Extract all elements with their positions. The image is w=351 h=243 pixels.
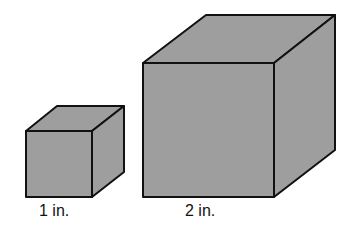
small-cube-front-face	[26, 131, 92, 197]
large-cube-label: 2 in.	[185, 203, 215, 219]
large-cube-front-face	[143, 63, 274, 197]
cube-diagram: 1 in. 2 in.	[0, 0, 351, 243]
large-cube	[143, 15, 335, 197]
small-cube-label: 1 in.	[39, 203, 69, 219]
small-cube	[26, 106, 124, 197]
